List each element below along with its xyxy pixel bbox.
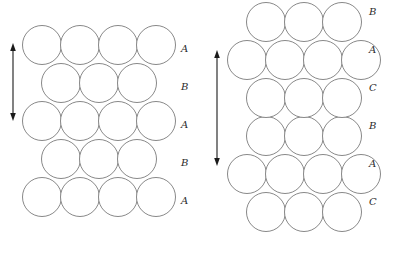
layer-label-hcp-2: A: [181, 120, 188, 130]
sphere: [61, 26, 100, 65]
layer-fcc-2-C: [247, 79, 362, 118]
sphere: [323, 117, 362, 156]
packing-diagram-svg: [0, 0, 398, 264]
layer-fcc-3-B: [247, 117, 362, 156]
sphere: [42, 64, 81, 103]
layer-label-fcc-3: B: [369, 121, 376, 131]
sphere: [137, 26, 176, 65]
arrow-head-down-icon: [10, 113, 16, 121]
sphere: [323, 79, 362, 118]
repeat-period-arrow-hcp: [10, 43, 16, 121]
sphere: [323, 3, 362, 42]
layer-hcp-3-B: [42, 140, 157, 179]
layer-label-fcc-4: A: [369, 159, 376, 169]
sphere: [80, 140, 119, 179]
stack-fcc: [228, 3, 381, 232]
layer-hcp-4-A: [23, 178, 176, 217]
sphere: [266, 41, 305, 80]
layer-label-fcc-1: A: [369, 45, 376, 55]
sphere: [42, 140, 81, 179]
sphere: [304, 41, 343, 80]
close-packing-figure: ABABABACBAC: [0, 0, 398, 264]
sphere: [23, 102, 62, 141]
sphere: [304, 155, 343, 194]
sphere: [23, 178, 62, 217]
sphere: [285, 3, 324, 42]
layer-label-fcc-2: C: [369, 83, 377, 93]
layer-label-hcp-4: A: [181, 196, 188, 206]
layer-fcc-4-A: [228, 155, 381, 194]
layer-label-hcp-3: B: [181, 158, 188, 168]
layer-fcc-5-C: [247, 193, 362, 232]
layer-label-hcp-1: B: [181, 82, 188, 92]
arrow-head-up-icon: [214, 50, 220, 58]
sphere: [247, 79, 286, 118]
sphere-group: [23, 3, 381, 232]
sphere: [228, 41, 267, 80]
layer-label-fcc-0: B: [369, 7, 376, 17]
sphere: [23, 26, 62, 65]
sphere: [228, 155, 267, 194]
layer-hcp-2-A: [23, 102, 176, 141]
layer-fcc-0-B: [247, 3, 362, 42]
repeat-period-arrow-fcc: [214, 50, 220, 166]
sphere: [137, 178, 176, 217]
layer-fcc-1-A: [228, 41, 381, 80]
sphere: [61, 102, 100, 141]
sphere: [99, 178, 138, 217]
sphere: [247, 117, 286, 156]
sphere: [137, 102, 176, 141]
layer-hcp-0-A: [23, 26, 176, 65]
sphere: [61, 178, 100, 217]
sphere: [99, 102, 138, 141]
sphere: [323, 193, 362, 232]
sphere: [247, 193, 286, 232]
sphere: [285, 193, 324, 232]
sphere: [80, 64, 119, 103]
arrow-head-down-icon: [214, 158, 220, 166]
sphere: [118, 140, 157, 179]
stack-hcp: [23, 26, 176, 217]
sphere: [285, 117, 324, 156]
sphere: [266, 155, 305, 194]
layer-hcp-1-B: [42, 64, 157, 103]
sphere: [247, 3, 286, 42]
sphere: [118, 64, 157, 103]
layer-label-fcc-5: C: [369, 197, 377, 207]
sphere: [285, 79, 324, 118]
sphere: [99, 26, 138, 65]
arrow-head-up-icon: [10, 43, 16, 51]
layer-label-hcp-0: A: [181, 44, 188, 54]
